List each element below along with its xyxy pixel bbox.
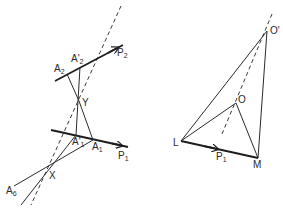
label-m: M: [253, 160, 261, 170]
geometry-figure: P2 A2 A'2 Y A'1 A1 P1 X A6 O' O L P1 M: [0, 0, 283, 208]
label-y: Y: [82, 98, 89, 108]
label-o: O: [238, 95, 246, 105]
left-diagram: [14, 6, 128, 205]
segment-oprime-l: [181, 31, 267, 141]
label-a2-prime: A'2: [71, 54, 84, 65]
label-p2: P2: [117, 48, 128, 59]
segment-o-l: [181, 103, 236, 141]
label-a1: A1: [92, 142, 103, 153]
segment-o-m: [236, 103, 258, 158]
label-o-prime: O': [270, 26, 280, 36]
label-a1-prime: A'1: [72, 137, 85, 148]
dashed-axis-line-right: [222, 14, 272, 134]
right-diagram: [181, 14, 272, 158]
label-p1: P1: [118, 151, 129, 162]
label-x: X: [49, 171, 56, 181]
label-l: L: [173, 138, 179, 148]
label-a6: A6: [6, 186, 17, 197]
segment-oprime-m: [258, 31, 267, 158]
label-a2: A2: [54, 64, 65, 75]
segment-a2-y: [67, 74, 79, 101]
arrow-p1-icon: [112, 144, 122, 146]
label-p1-right: P1: [216, 152, 227, 163]
arrow-lm-icon: [205, 146, 218, 149]
